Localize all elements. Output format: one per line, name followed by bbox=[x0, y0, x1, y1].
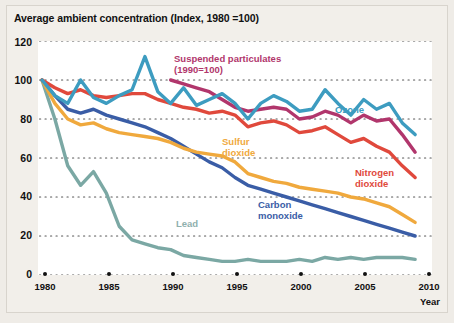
x-dot-2005 bbox=[363, 272, 367, 276]
y-tick-120: 120 bbox=[6, 36, 32, 48]
series-label-lead: Lead bbox=[176, 218, 198, 229]
x-tick-1995: 1995 bbox=[217, 281, 257, 292]
series-label-sulfur-dioxide-text: Sulfur dioxide bbox=[222, 136, 268, 158]
y-tick-60: 60 bbox=[6, 152, 32, 164]
x-dot-1990 bbox=[171, 272, 175, 276]
series-label-ozone-text: Ozone bbox=[335, 104, 364, 115]
y-tick-0: 0 bbox=[6, 268, 32, 280]
series-label-ozone: Ozone bbox=[335, 104, 364, 115]
series-label-suspended-particulates-sublabel: (1990=100) bbox=[174, 64, 223, 75]
series-line-suspended-particulates bbox=[171, 80, 415, 152]
x-tick-1985: 1985 bbox=[89, 281, 129, 292]
y-tick-80: 80 bbox=[6, 113, 32, 125]
series-label-carbon-monoxide-text: Carbon monoxide bbox=[258, 199, 320, 221]
series-label-lead-text: Lead bbox=[176, 218, 198, 229]
x-tick-2010: 2010 bbox=[409, 281, 449, 292]
x-tick-2000: 2000 bbox=[281, 281, 321, 292]
series-label-sulfur-dioxide: Sulfur dioxide bbox=[222, 136, 268, 158]
chart-title: Average ambient concentration (Index, 19… bbox=[14, 12, 259, 24]
x-dot-1980 bbox=[43, 272, 47, 276]
chart-page: Average ambient concentration (Index, 19… bbox=[0, 0, 454, 323]
x-dot-1995 bbox=[235, 272, 239, 276]
y-tick-40: 40 bbox=[6, 190, 32, 202]
series-label-nitrogen-dioxide: Nitrogen dioxide bbox=[355, 167, 411, 189]
series-label-carbon-monoxide: Carbon monoxide bbox=[258, 199, 320, 221]
x-dot-2000 bbox=[299, 272, 303, 276]
x-tick-1980: 1980 bbox=[25, 281, 65, 292]
x-axis-label: Year bbox=[420, 296, 440, 307]
x-dot-2010 bbox=[427, 272, 431, 276]
series-label-suspended-particulates-text: Suspended particulates bbox=[174, 53, 281, 64]
y-tick-100: 100 bbox=[6, 74, 32, 86]
y-tick-20: 20 bbox=[6, 229, 32, 241]
x-dot-1985 bbox=[107, 272, 111, 276]
x-tick-2005: 2005 bbox=[345, 281, 385, 292]
chart-svg bbox=[38, 41, 432, 275]
series-label-nitrogen-dioxide-text: Nitrogen dioxide bbox=[355, 167, 411, 189]
x-tick-1990: 1990 bbox=[153, 281, 193, 292]
series-label-suspended-particulates: Suspended particulates (1990=100) bbox=[174, 53, 281, 75]
series-line-nitrogen-dioxide bbox=[42, 80, 415, 178]
plot-area bbox=[38, 41, 432, 275]
